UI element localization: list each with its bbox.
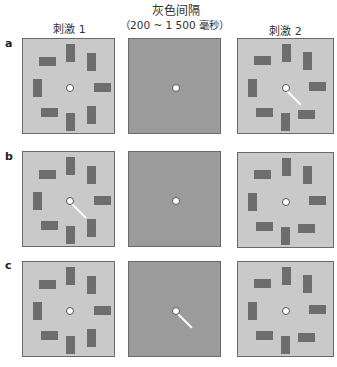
bar — [66, 44, 75, 62]
bar — [33, 302, 42, 320]
bar — [303, 52, 312, 70]
bar — [256, 108, 273, 117]
bar-changed — [298, 333, 315, 342]
header-gray-interval-title: 灰色间隔 — [128, 1, 223, 18]
bar — [41, 221, 58, 230]
fixation-point — [172, 84, 180, 92]
header-stimulus-1: 刺激 1 — [22, 20, 117, 36]
bar — [94, 306, 111, 315]
fixation-point — [66, 307, 74, 315]
bar — [87, 166, 96, 184]
bar — [39, 170, 56, 179]
bar — [66, 157, 75, 175]
bar — [66, 226, 75, 244]
panel-a-stimulus2 — [237, 38, 334, 134]
bar — [254, 279, 271, 288]
bar — [66, 113, 75, 131]
header-stimulus-2: 刺激 2 — [237, 22, 334, 38]
fixation-point — [282, 307, 290, 315]
panel-c-stimulus1 — [22, 261, 115, 357]
bar — [303, 166, 312, 184]
bar — [87, 219, 96, 237]
fixation-point — [172, 307, 180, 315]
bar — [282, 44, 291, 62]
bar — [281, 227, 290, 245]
bar — [248, 79, 257, 97]
bar-changed — [298, 224, 315, 233]
bar — [309, 82, 326, 91]
bar — [254, 56, 271, 65]
panel-a-stimulus1 — [22, 38, 115, 134]
panel-b-stimulus1 — [22, 151, 115, 247]
row-label-b: b — [5, 150, 13, 163]
bar — [33, 192, 42, 210]
bar — [281, 336, 290, 354]
bar — [309, 196, 326, 205]
bar — [87, 329, 96, 347]
fixation-point — [282, 84, 290, 92]
bar — [66, 267, 75, 285]
bar — [282, 267, 291, 285]
row-label-a: a — [5, 37, 12, 50]
fixation-point — [66, 84, 74, 92]
bar — [41, 331, 58, 340]
cue-line — [285, 89, 301, 105]
bar — [87, 276, 96, 294]
bar — [87, 53, 96, 71]
fixation-point — [172, 197, 180, 205]
bar — [33, 79, 42, 97]
cue-line — [70, 202, 86, 218]
bar — [66, 336, 75, 354]
bar — [282, 158, 291, 176]
bar — [41, 108, 58, 117]
bar — [303, 275, 312, 293]
fixation-point — [66, 197, 74, 205]
bar — [256, 222, 273, 231]
bar — [94, 196, 111, 205]
bar — [309, 305, 326, 314]
panel-c-stimulus2 — [237, 261, 334, 357]
panel-a-gray-interval — [128, 38, 221, 134]
bar — [39, 280, 56, 289]
bar — [94, 83, 111, 92]
panel-b-gray-interval — [128, 151, 221, 247]
bar — [281, 113, 290, 131]
bar — [248, 302, 257, 320]
panel-b-stimulus2 — [237, 152, 334, 248]
bar — [256, 331, 273, 340]
cue-line — [176, 312, 192, 328]
panel-c-gray-interval — [128, 261, 221, 357]
bar — [39, 57, 56, 66]
bar — [254, 170, 271, 179]
bar — [87, 106, 96, 124]
row-label-c: c — [5, 259, 12, 272]
bar — [298, 110, 315, 119]
header-interval-duration: （200 ~ 1 500 毫秒） — [112, 17, 237, 32]
bar — [248, 193, 257, 211]
fixation-point — [282, 198, 290, 206]
